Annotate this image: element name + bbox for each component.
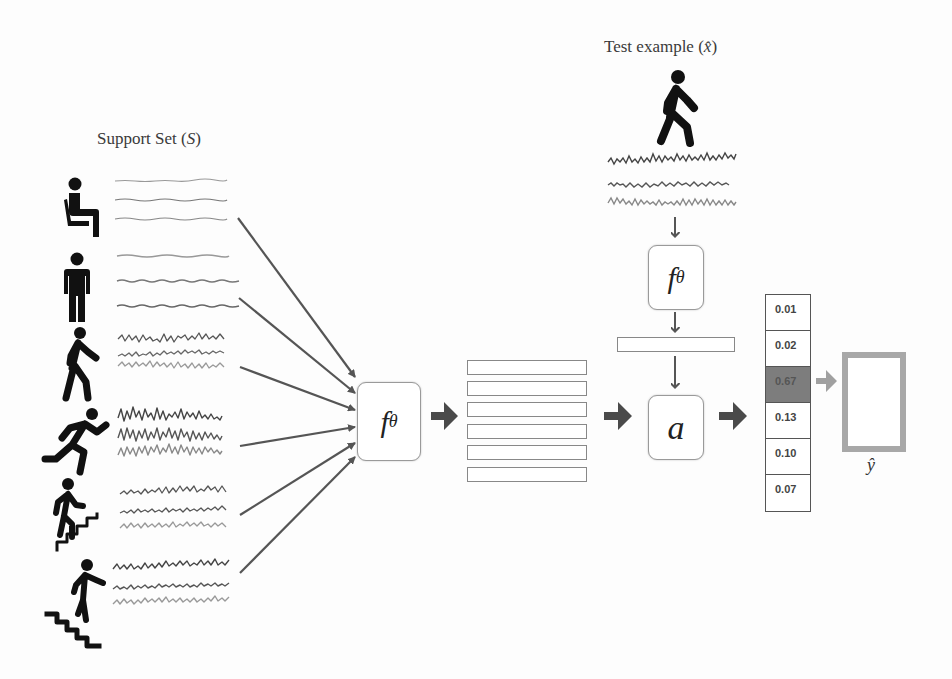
block-arrow-encoder-to-embeddings [431, 402, 458, 430]
probability-column: 0.01 0.02 0.67 0.13 0.10 0.07 [765, 294, 811, 512]
probability-cell: 0.10 [766, 439, 810, 475]
embedding-bar [467, 467, 587, 482]
probability-cell: 0.07 [766, 475, 810, 511]
embedding-bar [467, 445, 587, 460]
descending-stairs-icon [47, 559, 103, 646]
support-to-encoder-arrows [238, 218, 355, 573]
running-person-icon [45, 408, 106, 472]
embedding-bar [467, 402, 587, 417]
standing-person-icon [64, 253, 90, 323]
prediction-label: ŷ [867, 455, 875, 476]
test-embedding-bar [617, 337, 735, 352]
signal-group-walking [118, 333, 224, 368]
block-arrow-attention-to-probabilities [719, 402, 747, 430]
walking-person-icon [66, 327, 96, 398]
signal-group-sitting [115, 179, 227, 220]
encoder-label: f [380, 405, 388, 439]
signal-group-standing [117, 255, 239, 307]
embedding-bar [467, 360, 587, 375]
probability-cell: 0.01 [766, 295, 810, 331]
embedding-bar [467, 424, 587, 439]
signal-group-running [118, 407, 222, 456]
sitting-person-icon [64, 178, 99, 238]
embedding-bar [467, 381, 587, 396]
test-signals [608, 153, 736, 205]
test-encoder-subscript: θ [676, 267, 685, 288]
encoder-subscript: θ [389, 411, 398, 432]
signal-group-upstairs [120, 486, 226, 528]
probability-cell: 0.02 [766, 331, 810, 367]
test-walking-person-icon [661, 70, 694, 143]
support-signals [113, 179, 239, 604]
block-arrow-probability-to-prediction [816, 370, 837, 392]
block-arrow-embeddings-to-attention [604, 402, 632, 430]
test-encoder-label: f [667, 261, 675, 295]
prediction-box [842, 352, 906, 452]
signal-group-downstairs [113, 559, 229, 604]
support-encoder-box: fθ [357, 382, 421, 461]
test-encoder-box: fθ [648, 245, 704, 310]
probability-cell-highlighted: 0.67 [766, 367, 810, 403]
probability-cell: 0.13 [766, 403, 810, 439]
attention-box: a [648, 395, 704, 460]
climbing-stairs-icon [56, 478, 97, 550]
attention-label: a [668, 409, 685, 447]
